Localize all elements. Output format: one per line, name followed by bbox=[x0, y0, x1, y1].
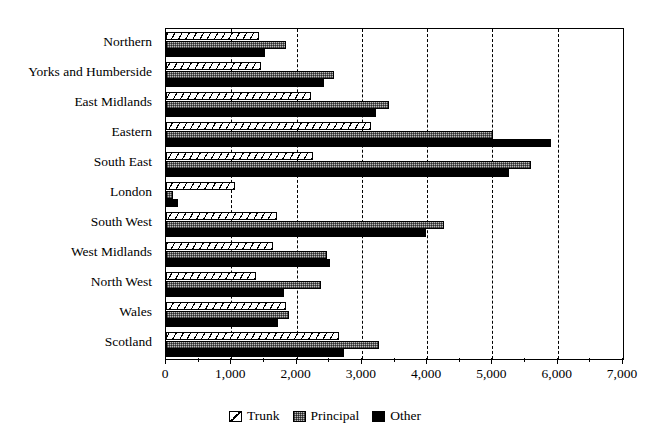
category-label: Eastern bbox=[0, 125, 152, 139]
x-tick-minor bbox=[589, 358, 590, 362]
legend-swatch-other-icon bbox=[372, 411, 385, 422]
bar-principal bbox=[166, 131, 493, 139]
category-label: London bbox=[0, 185, 152, 199]
x-axis-label: 3,000 bbox=[346, 366, 376, 382]
bar-trunk bbox=[166, 122, 371, 130]
bar-principal bbox=[166, 281, 321, 289]
bar-other bbox=[166, 229, 426, 237]
bar-other bbox=[166, 199, 178, 207]
legend-items: TrunkPrincipalOther bbox=[229, 409, 421, 423]
bar-trunk bbox=[166, 92, 311, 100]
x-tick-major bbox=[361, 358, 362, 364]
legend-item-trunk[interactable]: Trunk bbox=[229, 409, 280, 423]
x-axis-label: 6,000 bbox=[542, 366, 572, 382]
x-axis-label: 5,000 bbox=[476, 366, 506, 382]
bar-other bbox=[166, 349, 344, 357]
x-axis-label: 4,000 bbox=[411, 366, 441, 382]
chart-legend: TrunkPrincipalOther bbox=[0, 405, 660, 427]
bar-other bbox=[166, 79, 324, 87]
bar-other bbox=[166, 169, 509, 177]
bar-other bbox=[166, 139, 551, 147]
bar-group bbox=[166, 299, 623, 329]
x-tick-major bbox=[557, 358, 558, 364]
plot-area bbox=[165, 28, 624, 360]
x-tick-minor bbox=[198, 358, 199, 362]
legend-item-other[interactable]: Other bbox=[372, 409, 421, 423]
x-tick-minor bbox=[328, 358, 329, 362]
x-axis-label: 0 bbox=[162, 366, 169, 382]
bar-group bbox=[166, 239, 623, 269]
bar-principal bbox=[166, 221, 444, 229]
bar-group bbox=[166, 29, 623, 59]
category-label: Wales bbox=[0, 305, 152, 319]
category-label: Scotland bbox=[0, 335, 152, 349]
x-tick-minor bbox=[524, 358, 525, 362]
x-tick-minor bbox=[394, 358, 395, 362]
legend-label: Other bbox=[390, 409, 421, 423]
bar-principal bbox=[166, 191, 173, 199]
x-axis-tick-labels: 01,0002,0003,0004,0005,0006,0007,000 bbox=[0, 366, 660, 386]
plot-inner bbox=[166, 29, 623, 359]
bar-trunk bbox=[166, 332, 339, 340]
bar-other bbox=[166, 319, 278, 327]
category-label: East Midlands bbox=[0, 95, 152, 109]
bar-other bbox=[166, 109, 376, 117]
legend-item-principal[interactable]: Principal bbox=[293, 409, 360, 423]
legend-swatch-principal-icon bbox=[293, 411, 306, 422]
category-axis-labels: NorthernYorks and HumbersideEast Midland… bbox=[0, 28, 157, 358]
bar-trunk bbox=[166, 212, 277, 220]
bar-other bbox=[166, 259, 330, 267]
x-tick-major bbox=[622, 358, 623, 364]
bar-group bbox=[166, 179, 623, 209]
bar-other bbox=[166, 49, 265, 57]
bar-trunk bbox=[166, 242, 273, 250]
category-label: South West bbox=[0, 215, 152, 229]
bar-principal bbox=[166, 161, 531, 169]
bar-principal bbox=[166, 71, 334, 79]
bar-group bbox=[166, 149, 623, 179]
category-label: Yorks and Humberside bbox=[0, 65, 152, 79]
bar-group bbox=[166, 89, 623, 119]
bar-group bbox=[166, 119, 623, 149]
x-axis-label: 1,000 bbox=[215, 366, 245, 382]
x-axis-ticks bbox=[165, 358, 622, 365]
legend-label: Trunk bbox=[247, 409, 280, 423]
category-label: South East bbox=[0, 155, 152, 169]
bar-trunk bbox=[166, 62, 261, 70]
category-label: Northern bbox=[0, 35, 152, 49]
x-tick-major bbox=[165, 358, 166, 364]
x-tick-major bbox=[296, 358, 297, 364]
bar-principal bbox=[166, 101, 389, 109]
bar-group bbox=[166, 269, 623, 299]
legend-label: Principal bbox=[311, 409, 360, 423]
bar-trunk bbox=[166, 302, 286, 310]
bar-principal bbox=[166, 251, 327, 259]
bar-trunk bbox=[166, 152, 313, 160]
category-label: West Midlands bbox=[0, 245, 152, 259]
bar-group bbox=[166, 59, 623, 89]
bar-trunk bbox=[166, 32, 259, 40]
category-label: North West bbox=[0, 275, 152, 289]
x-tick-major bbox=[426, 358, 427, 364]
x-tick-major bbox=[491, 358, 492, 364]
bar-trunk bbox=[166, 272, 256, 280]
x-axis-label: 2,000 bbox=[280, 366, 310, 382]
x-tick-major bbox=[230, 358, 231, 364]
bar-group bbox=[166, 209, 623, 239]
bar-other bbox=[166, 289, 284, 297]
bar-principal bbox=[166, 41, 286, 49]
bar-principal bbox=[166, 341, 379, 349]
bar-group bbox=[166, 329, 623, 359]
x-axis-label: 7,000 bbox=[607, 366, 637, 382]
bar-chart: NorthernYorks and HumbersideEast Midland… bbox=[0, 0, 660, 445]
x-tick-minor bbox=[263, 358, 264, 362]
x-tick-minor bbox=[459, 358, 460, 362]
bar-principal bbox=[166, 311, 289, 319]
bar-trunk bbox=[166, 182, 235, 190]
legend-swatch-trunk-icon bbox=[229, 411, 242, 422]
